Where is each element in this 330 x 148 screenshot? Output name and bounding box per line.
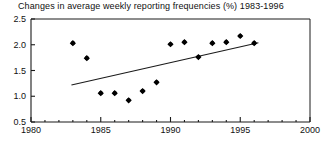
data-point-marker-core [182,40,186,44]
data-point-marker-core [127,98,131,102]
x-axis-tick-label: 1990 [160,125,180,135]
data-point-marker-core [238,34,242,38]
data-point-marker-core [154,80,158,84]
y-axis-tick-label: 1.0 [13,91,26,101]
trend-line-group [71,43,258,85]
x-axis-tick-label: 2000 [300,125,320,135]
data-point-marker-core [252,41,256,45]
trend-line [71,43,258,85]
data-point-marker-core [224,40,228,44]
x-axis-tick-label: 1985 [91,125,111,135]
x-axis-tick-label: 1980 [21,125,41,135]
data-point-marker-core [210,41,214,45]
x-axis-tick-labels: 19801985199019952000 [21,125,320,135]
x-axis-tick-label: 1995 [230,125,250,135]
y-axis-tick-label: 2.5 [13,14,26,24]
y-axis-tick-labels: 0.51.01.52.02.5 [13,14,26,127]
data-point-marker-core [168,42,172,46]
chart-container: Changes in average weekly reporting freq… [0,0,330,148]
data-point-marker-core [196,55,200,59]
data-point-marker-core [71,41,75,45]
data-point-marker-core [113,91,117,95]
data-point-marker-core [141,89,145,93]
chart-plot-area: 0.51.01.52.02.5 19801985199019952000 [0,0,330,148]
plot-frame [31,19,310,122]
data-markers-group [70,33,258,104]
y-axis-tick-label: 2.0 [13,40,26,50]
y-axis-tick-label: 1.5 [13,66,26,76]
data-point-marker-core [99,91,103,95]
axes-group [31,19,310,122]
data-point-marker-core [85,56,89,60]
